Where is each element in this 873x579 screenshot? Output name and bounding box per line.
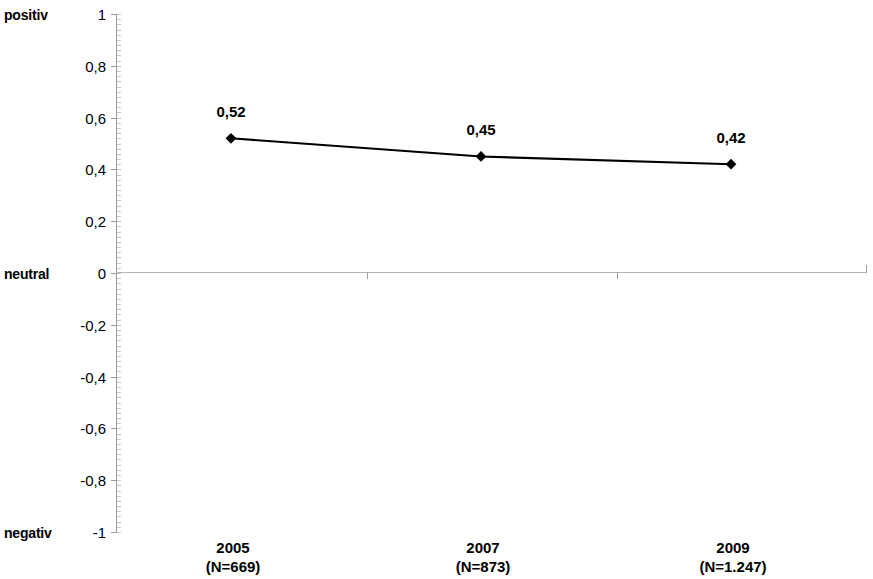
y-minor-tick	[117, 107, 121, 108]
y-minor-tick	[117, 159, 121, 160]
y-anchor-label-positiv: positiv	[4, 8, 74, 22]
y-minor-tick	[117, 226, 121, 227]
y-minor-tick	[117, 190, 121, 191]
y-minor-tick	[117, 403, 121, 404]
y-minor-tick	[117, 397, 121, 398]
y-minor-tick	[117, 283, 121, 284]
y-minor-tick	[117, 118, 121, 119]
y-minor-tick	[117, 501, 121, 502]
x-category-label-2007: 2007(N=873)	[456, 538, 511, 576]
series-line-chart	[0, 0, 873, 579]
series-polyline	[231, 138, 731, 164]
x-category-sample-size: (N=669)	[206, 557, 261, 576]
y-minor-tick	[117, 50, 121, 51]
data-point-marker	[726, 159, 737, 170]
y-minor-tick	[117, 263, 121, 264]
y-minor-tick	[117, 66, 121, 67]
x-category-year: 2009	[716, 539, 749, 556]
x-category-tick	[367, 272, 368, 279]
y-minor-tick	[117, 496, 121, 497]
y-minor-tick	[117, 24, 121, 25]
y-minor-tick	[117, 169, 121, 170]
y-minor-tick	[117, 144, 121, 145]
y-minor-tick	[117, 206, 121, 207]
y-minor-tick	[117, 81, 121, 82]
x-category-tick	[866, 265, 867, 273]
x-category-sample-size: (N=873)	[456, 557, 511, 576]
y-minor-tick	[117, 423, 121, 424]
y-minor-tick	[117, 428, 121, 429]
y-minor-tick	[117, 138, 121, 139]
y-minor-tick	[117, 195, 121, 196]
y-minor-tick	[117, 200, 121, 201]
y-minor-tick	[117, 40, 121, 41]
y-minor-tick	[117, 149, 121, 150]
y-minor-tick	[117, 92, 121, 93]
y-minor-tick	[117, 470, 121, 471]
y-minor-tick	[117, 522, 121, 523]
y-minor-tick	[117, 475, 121, 476]
y-minor-tick	[117, 459, 121, 460]
y-minor-tick	[117, 392, 121, 393]
y-minor-tick	[117, 19, 121, 20]
y-minor-tick	[117, 211, 121, 212]
y-minor-tick	[117, 102, 121, 103]
data-value-label: 0,42	[716, 130, 745, 145]
y-minor-tick	[117, 449, 121, 450]
y-minor-tick	[117, 123, 121, 124]
y-minor-tick	[117, 237, 121, 238]
y-minor-tick	[117, 434, 121, 435]
y-minor-tick	[117, 516, 121, 517]
y-minor-tick	[117, 335, 121, 336]
y-minor-tick	[117, 527, 121, 528]
y-minor-tick	[117, 180, 121, 181]
y-minor-tick	[117, 371, 121, 372]
y-minor-tick	[117, 506, 121, 507]
data-point-marker	[226, 133, 237, 144]
y-minor-tick	[117, 361, 121, 362]
y-tick-label: -0,2	[58, 318, 106, 333]
y-minor-tick	[117, 294, 121, 295]
y-tick-label: 0,6	[58, 111, 106, 126]
y-minor-tick	[117, 356, 121, 357]
y-tick-label: -0,8	[58, 473, 106, 488]
y-minor-tick	[117, 221, 121, 222]
x-category-sample-size: (N=1.247)	[699, 557, 766, 576]
y-minor-tick	[117, 309, 121, 310]
y-minor-tick	[117, 351, 121, 352]
chart-container: 10,80,60,40,20-0,2-0,4-0,6-0,8-1 positiv…	[0, 0, 873, 579]
y-minor-tick	[117, 511, 121, 512]
y-minor-tick	[117, 454, 121, 455]
y-minor-tick	[117, 133, 121, 134]
y-tick-label: 0,4	[58, 162, 106, 177]
x-category-tick	[617, 272, 618, 279]
y-minor-tick	[117, 314, 121, 315]
y-minor-tick	[117, 465, 121, 466]
y-minor-tick	[117, 112, 121, 113]
y-minor-tick	[117, 71, 121, 72]
y-minor-tick	[117, 97, 121, 98]
y-minor-tick	[117, 325, 121, 326]
y-minor-tick	[117, 444, 121, 445]
x-category-label-2009: 2009(N=1.247)	[699, 538, 766, 576]
y-minor-tick	[117, 30, 121, 31]
y-minor-tick	[117, 320, 121, 321]
y-minor-tick	[117, 45, 121, 46]
zero-baseline	[116, 272, 866, 273]
y-minor-tick	[117, 268, 121, 269]
y-minor-tick	[117, 304, 121, 305]
y-anchor-label-neutral: neutral	[4, 267, 74, 281]
y-minor-tick	[117, 439, 121, 440]
y-minor-tick	[117, 418, 121, 419]
y-tick-label: -0,6	[58, 421, 106, 436]
y-minor-tick	[117, 532, 121, 533]
data-point-marker	[476, 151, 487, 162]
y-minor-tick	[117, 346, 121, 347]
y-minor-tick	[117, 242, 121, 243]
y-minor-tick	[117, 377, 121, 378]
y-minor-tick	[117, 480, 121, 481]
y-minor-tick	[117, 216, 121, 217]
y-tick-label: 0,2	[58, 214, 106, 229]
y-minor-tick	[117, 491, 121, 492]
y-minor-tick	[117, 232, 121, 233]
